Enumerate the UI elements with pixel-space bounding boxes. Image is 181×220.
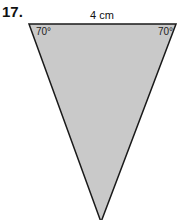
angle-top-left: 70°: [36, 26, 51, 37]
top-side-label: 4 cm: [90, 9, 114, 21]
angle-top-right: 70°: [158, 26, 173, 37]
triangle-figure: [0, 0, 181, 220]
triangle: [29, 24, 176, 220]
